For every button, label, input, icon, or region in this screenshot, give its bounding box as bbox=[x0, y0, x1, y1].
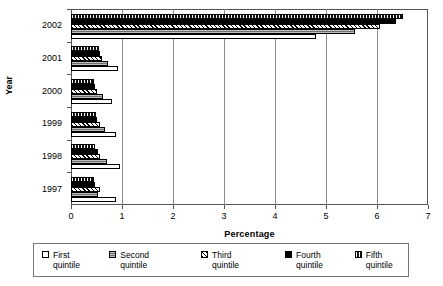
bar-q1 bbox=[71, 34, 316, 39]
y-axis-title: Year bbox=[4, 76, 14, 95]
y-axis-label: 1997 bbox=[30, 184, 62, 194]
x-tick bbox=[71, 205, 72, 209]
legend-label: Fourth quintile bbox=[296, 250, 337, 270]
bar-q1 bbox=[71, 66, 118, 71]
bar-q1 bbox=[71, 197, 116, 202]
y-axis-label: 2000 bbox=[30, 86, 62, 96]
y-tick bbox=[67, 107, 71, 108]
bar-q5 bbox=[71, 46, 99, 51]
bar-group bbox=[71, 9, 428, 42]
x-tick bbox=[275, 205, 276, 209]
bar-q2 bbox=[71, 94, 103, 99]
x-tick-label: 6 bbox=[367, 211, 387, 221]
x-tick bbox=[173, 205, 174, 209]
x-tick-label: 2 bbox=[163, 211, 183, 221]
legend-label: Second quintile bbox=[120, 250, 149, 270]
bar-q5 bbox=[71, 79, 94, 84]
bar-q3 bbox=[71, 24, 380, 29]
bar-q2 bbox=[71, 29, 355, 34]
bar-q4 bbox=[71, 149, 98, 154]
legend-item-q2[interactable]: Second quintile bbox=[109, 250, 149, 270]
bar-q3 bbox=[71, 56, 102, 61]
x-tick-label: 0 bbox=[61, 211, 81, 221]
y-tick bbox=[67, 140, 71, 141]
y-tick bbox=[67, 9, 71, 10]
y-axis-label: 2002 bbox=[30, 20, 62, 30]
x-tick bbox=[377, 205, 378, 209]
bar-q5 bbox=[71, 144, 95, 149]
bar-group bbox=[71, 107, 428, 140]
bar-group bbox=[71, 140, 428, 173]
legend-swatch-icon bbox=[355, 251, 362, 258]
bar-group bbox=[71, 42, 428, 75]
legend-item-q1[interactable]: First quintile bbox=[42, 250, 87, 270]
bar-q2 bbox=[71, 192, 98, 197]
bar-q3 bbox=[71, 154, 100, 159]
bar-q1 bbox=[71, 132, 116, 137]
y-tick bbox=[67, 42, 71, 43]
bar-q1 bbox=[71, 99, 112, 104]
y-tick bbox=[67, 172, 71, 173]
bar-q3 bbox=[71, 187, 100, 192]
x-tick-label: 7 bbox=[418, 211, 438, 221]
bar-q5 bbox=[71, 112, 96, 117]
y-tick bbox=[67, 74, 71, 75]
legend-label: Fifth quintile bbox=[366, 250, 400, 270]
legend-swatch-icon bbox=[109, 251, 116, 258]
bar-group bbox=[71, 74, 428, 107]
bar-q5 bbox=[71, 14, 403, 19]
bar-q2 bbox=[71, 159, 107, 164]
legend-label: Third quintile bbox=[212, 250, 239, 270]
chart-legend: First quintileSecond quintileThird quint… bbox=[33, 243, 409, 277]
legend-swatch-icon bbox=[285, 251, 292, 258]
legend-label: First quintile bbox=[53, 250, 87, 270]
legend-item-q4[interactable]: Fourth quintile bbox=[285, 250, 337, 270]
bar-q4 bbox=[71, 182, 95, 187]
x-tick bbox=[122, 205, 123, 209]
bar-chart: Year 01234567 Percentage 199719981999200… bbox=[0, 0, 443, 286]
x-axis-title: Percentage bbox=[71, 229, 428, 239]
legend-swatch-icon bbox=[42, 251, 49, 258]
bar-q1 bbox=[71, 164, 120, 169]
x-tick-label: 5 bbox=[316, 211, 336, 221]
x-tick bbox=[224, 205, 225, 209]
y-axis-label: 2001 bbox=[30, 53, 62, 63]
bar-q3 bbox=[71, 122, 100, 127]
x-tick bbox=[326, 205, 327, 209]
bar-q5 bbox=[71, 177, 94, 182]
bar-q4 bbox=[71, 19, 396, 24]
bar-q2 bbox=[71, 61, 108, 66]
bar-q4 bbox=[71, 84, 95, 89]
legend-item-q5[interactable]: Fifth quintile bbox=[355, 250, 400, 270]
legend-swatch-icon bbox=[201, 251, 208, 258]
bar-q4 bbox=[71, 51, 100, 56]
plot-wrapper: 01234567 Percentage bbox=[71, 9, 428, 205]
x-tick-label: 1 bbox=[112, 211, 132, 221]
legend-item-q3[interactable]: Third quintile bbox=[201, 250, 239, 270]
y-axis-label: 1999 bbox=[30, 118, 62, 128]
bar-group bbox=[71, 172, 428, 205]
bar-q4 bbox=[71, 117, 97, 122]
x-tick-label: 3 bbox=[214, 211, 234, 221]
x-tick-label: 4 bbox=[265, 211, 285, 221]
bar-q3 bbox=[71, 89, 97, 94]
x-tick bbox=[428, 205, 429, 209]
y-axis-label: 1998 bbox=[30, 151, 62, 161]
bar-q2 bbox=[71, 127, 105, 132]
